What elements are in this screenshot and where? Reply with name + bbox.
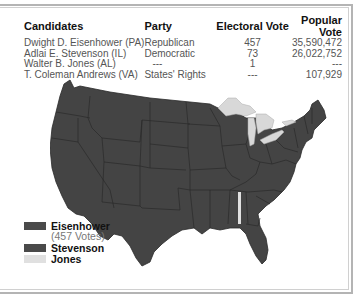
legend-item-jones: Jones: [24, 253, 110, 264]
candidate-name: Dwight D. Eisenhower (PA): [24, 38, 144, 49]
header-popular-vote: Popular Vote: [292, 14, 342, 38]
candidate-party: ---: [144, 59, 213, 70]
popular-vote: ---: [292, 59, 342, 70]
legend-item-stevenson: Stevenson: [24, 242, 110, 253]
candidate-name: Walter B. Jones (AL): [24, 59, 144, 70]
legend-swatch-jones: [24, 255, 46, 263]
legend-swatch-eisenhower: [24, 222, 46, 230]
header-candidates: Candidates: [24, 14, 144, 38]
map-legend: Eisenhower (457 Votes) Stevenson Jones: [24, 220, 110, 264]
candidate-party: Republican: [144, 38, 213, 49]
jones-elector-marker: [238, 192, 241, 224]
popular-vote: 35,590,472: [292, 38, 342, 49]
electoral-vote: 1: [213, 59, 292, 70]
table-row: Walter B. Jones (AL) --- 1 ---: [24, 59, 342, 70]
table-header-row: Candidates Party Electoral Vote Popular …: [24, 14, 342, 38]
legend-swatch-stevenson: [24, 244, 46, 252]
header-electoral-vote: Electoral Vote: [213, 14, 292, 38]
header-party: Party: [144, 14, 213, 38]
legend-label: Jones: [51, 253, 81, 265]
legend-sublabel: (457 Votes): [51, 231, 110, 242]
election-results-table: Candidates Party Electoral Vote Popular …: [24, 14, 342, 80]
electoral-vote: 457: [213, 38, 292, 49]
table-row: Dwight D. Eisenhower (PA) Republican 457…: [24, 38, 342, 49]
lake-superior: [218, 98, 256, 116]
